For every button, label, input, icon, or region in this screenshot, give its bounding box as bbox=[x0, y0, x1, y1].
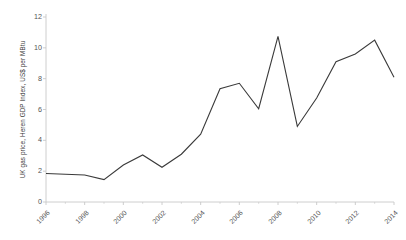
tick-marks bbox=[43, 17, 394, 205]
plot-area bbox=[0, 0, 406, 240]
data-series-line bbox=[46, 36, 394, 179]
axis-lines bbox=[46, 14, 394, 202]
line-chart: UK gas price, Heren GDP Index, US$ per M… bbox=[0, 0, 406, 240]
